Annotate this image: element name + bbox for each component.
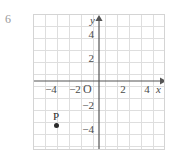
y-axis-label: y bbox=[90, 15, 95, 26]
y-tick-label-neg4: −4 bbox=[70, 124, 94, 135]
coordinate-plane-figure: 6 y x O −4 −2 2 4 4 2 −2 −4 P bbox=[0, 0, 176, 160]
data-point-p bbox=[54, 123, 59, 128]
y-tick-label-2: 2 bbox=[72, 53, 94, 64]
y-tick-label-4: 4 bbox=[72, 29, 94, 40]
x-tick-label-neg2: −2 bbox=[63, 84, 87, 95]
y-axis-arrow-icon bbox=[95, 15, 102, 21]
point-label-p: P bbox=[53, 111, 59, 122]
y-tick-label-neg2: −2 bbox=[70, 100, 94, 111]
x-tick-label-4: 4 bbox=[135, 84, 159, 95]
coordinate-grid: y x O −4 −2 2 4 4 2 −2 −4 P bbox=[33, 14, 165, 150]
x-tick-label-2: 2 bbox=[111, 84, 135, 95]
problem-number: 6 bbox=[5, 13, 11, 25]
x-tick-label-neg4: −4 bbox=[39, 84, 63, 95]
